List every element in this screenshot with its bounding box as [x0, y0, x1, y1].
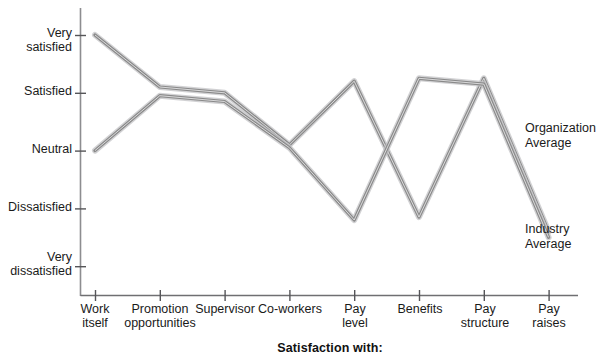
series-label-industry-average: Industry Average — [525, 222, 597, 252]
series-line-highlight — [95, 35, 549, 232]
series-lines — [95, 35, 549, 237]
xtick-label-pay-raises: Pay raises — [510, 302, 588, 330]
ytick-label-dissatisfied: Dissatisfied — [0, 201, 72, 215]
satisfaction-line-chart: Very satisfied Satisfied Neutral Dissati… — [0, 0, 597, 360]
ytick-label-satisfied: Satisfied — [0, 85, 72, 99]
series-label-organization-average: Organization Average — [525, 121, 597, 151]
series-line — [95, 35, 549, 232]
axis-lines — [81, 8, 579, 296]
x-axis-title: Satisfaction with: — [230, 341, 430, 355]
series-line-shadow — [95, 78, 549, 237]
series-line-highlight — [95, 78, 549, 237]
ytick-label-very-dissatisfied: Very dissatisfied — [0, 251, 72, 278]
ytick-label-neutral: Neutral — [0, 143, 72, 157]
ytick-label-very-satisfied: Very satisfied — [0, 27, 72, 54]
series-line — [95, 78, 549, 237]
series-line-shadow — [95, 35, 549, 232]
